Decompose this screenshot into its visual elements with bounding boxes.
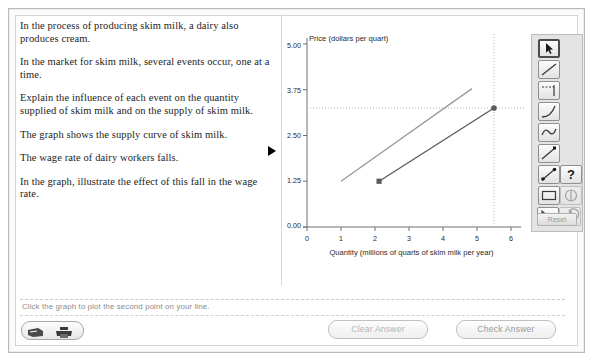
rectangle-icon [539, 187, 559, 204]
line-icon [539, 61, 559, 78]
freehand-curve-tool-button[interactable] [538, 123, 560, 142]
series-user-drawn-line [379, 108, 494, 181]
question-paragraph-1: In the process of producing skim milk, a… [20, 20, 270, 45]
marker-circle-1 [491, 105, 497, 111]
x-tick-label-6: 6 [505, 234, 517, 243]
pointer-tool-button[interactable] [538, 39, 560, 58]
application-window: In the process of producing skim milk, a… [0, 0, 593, 361]
x-axis-label: Quantity (millions of quarts of skim mil… [304, 248, 519, 257]
help-tool-button[interactable]: ? [560, 165, 582, 184]
y-tick-label-2: 2.50 [279, 131, 301, 140]
x-tick-label-4: 4 [437, 234, 449, 243]
question-paragraph-5: The wage rate of dairy workers falls. [20, 152, 270, 165]
question-text-panel: In the process of producing skim milk, a… [14, 18, 276, 258]
curve-icon [539, 103, 559, 120]
x-tick-label-3: 3 [403, 234, 415, 243]
straight-line-tool-button[interactable] [538, 60, 560, 79]
question-paragraph-4: The graph shows the supply curve of skim… [20, 129, 270, 142]
shading-icon [561, 187, 581, 204]
question-mark-icon: ? [561, 166, 581, 183]
print-icon-button[interactable] [54, 325, 76, 338]
notes-icon-button[interactable] [26, 325, 48, 338]
x-tick-label-5: 5 [471, 234, 483, 243]
footer-separator [20, 315, 565, 316]
svg-text:?: ? [567, 167, 575, 182]
y-tick-label-4: 5.00 [279, 41, 301, 50]
notes-icon [26, 326, 46, 339]
reset-button[interactable]: Reset [537, 213, 577, 226]
status-separator [20, 299, 565, 300]
footer-icon-bar[interactable] [21, 321, 84, 340]
ray-tool-button[interactable] [538, 144, 560, 163]
graph-canvas[interactable]: Price (dollars per quart) 5.00 3.75 2.50… [287, 16, 527, 271]
question-paragraph-6: In the graph, illustrate the effect of t… [20, 176, 270, 201]
curve-tool-button[interactable] [538, 102, 560, 121]
rectangle-tool-button[interactable] [538, 186, 560, 205]
x-tick-label-1: 1 [335, 234, 347, 243]
question-paragraph-3: Explain the influence of each event on t… [20, 92, 270, 117]
chart-plot[interactable] [287, 16, 527, 271]
shading-tool-button[interactable] [560, 186, 582, 205]
x-tick-label-2: 2 [369, 234, 381, 243]
status-message: Click the graph to plot the second point… [22, 302, 210, 311]
y-tick-label-3: 3.75 [279, 86, 301, 95]
arrow-tool-button[interactable] [538, 165, 560, 184]
y-tick-label-1: 1.25 [279, 176, 301, 185]
y-tick-label-0: 0.00 [279, 221, 301, 230]
arrow-icon [539, 166, 559, 183]
pointer-icon [540, 41, 558, 56]
panel-divider [281, 14, 282, 286]
question-paragraph-2: In the market for skim milk, several eve… [20, 56, 270, 81]
row-pointer-arrow-icon [268, 146, 276, 156]
x-tick-label-0: 0 [301, 234, 313, 243]
ray-icon [539, 145, 559, 162]
squiggle-icon [539, 124, 559, 141]
check-answer-button[interactable]: Check Answer [456, 320, 556, 339]
clear-answer-button[interactable]: Clear Answer [328, 320, 428, 339]
marker-square-0 [376, 179, 381, 184]
drawing-toolbar[interactable]: ? [531, 34, 583, 232]
line-segment-tool-button[interactable] [538, 81, 560, 100]
line-segment-icon [539, 82, 559, 99]
print-icon [54, 326, 74, 339]
